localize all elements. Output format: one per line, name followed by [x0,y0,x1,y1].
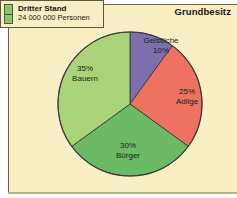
pie-svg [0,0,237,198]
legend-subtitle: 24 000 000 Personen [18,14,90,22]
legend-text-group: Dritter Stand 24 000 000 Personen [18,5,90,22]
legend-box: Dritter Stand 24 000 000 Personen [0,0,104,28]
legend-color-swatch [4,4,13,24]
pie-graphic: Geistliche 10% 25% Adlige 30% Bürger 35%… [0,0,237,198]
chart-title: Grundbesitz [174,6,231,17]
pie-chart-figure: Geistliche 10% 25% Adlige 30% Bürger 35%… [0,0,237,198]
